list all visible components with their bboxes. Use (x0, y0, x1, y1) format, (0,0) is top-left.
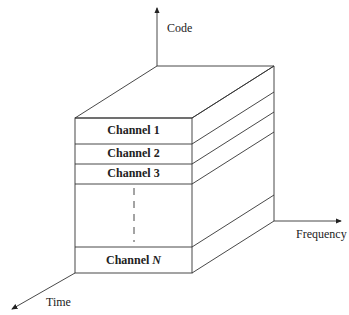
right-face (192, 66, 274, 273)
time-axis-label: Time (46, 295, 71, 310)
channel-2-label: Channel 2 (75, 146, 192, 161)
channel-3-label: Channel 3 (75, 166, 192, 181)
channel-1-label: Channel 1 (75, 123, 192, 138)
code-axis-label: Code (167, 21, 192, 36)
frequency-axis-label: Frequency (296, 227, 347, 242)
front-face (75, 118, 192, 273)
top-face (75, 66, 274, 118)
channel-n-label: Channel N (75, 253, 192, 268)
